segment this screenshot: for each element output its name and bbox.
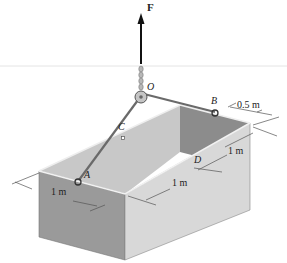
- dimension-1m-length: 1 m: [172, 178, 187, 188]
- force-arrow-head: [138, 13, 145, 24]
- point-D-label: D: [194, 155, 201, 165]
- box-lifting-diagram: [0, 0, 287, 263]
- dimension-1m-width: 1 m: [51, 187, 66, 197]
- point-C-marker: [122, 137, 125, 140]
- chain: [139, 66, 143, 90]
- diagram-canvas: F O B C A D 0.5 m 1 m 1 m 1 m: [0, 0, 287, 263]
- point-O-label: O: [147, 82, 154, 92]
- dimension-0-5m: 0.5 m: [237, 100, 260, 110]
- point-A-label: A: [84, 170, 90, 180]
- dimension-1m-depth: 1 m: [228, 146, 243, 156]
- point-C-label: C: [118, 122, 125, 132]
- pulley-axle: [139, 95, 143, 99]
- force-label: F: [147, 2, 154, 13]
- point-B-label: B: [211, 96, 217, 106]
